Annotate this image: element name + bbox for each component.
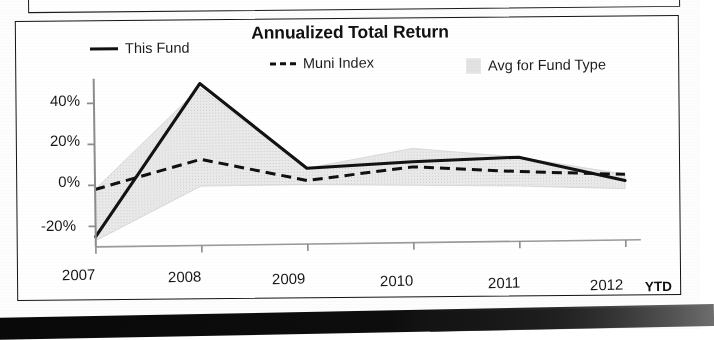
avg-fund-type-band bbox=[94, 82, 626, 241]
